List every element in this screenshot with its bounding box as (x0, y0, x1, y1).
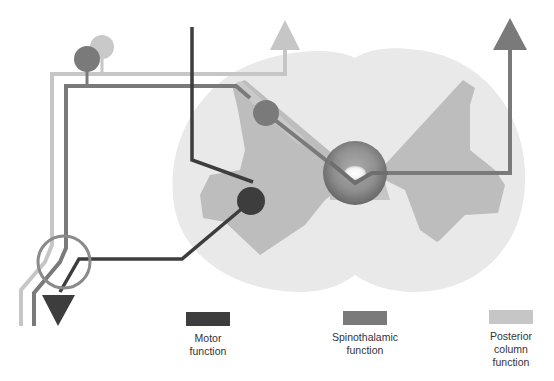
legend-swatch-motor (186, 312, 230, 326)
legend-label-motor-line2: function (180, 345, 236, 358)
legend-label-posterior-line1: Posterior (481, 330, 541, 343)
spinothalamic-ascending-arrow-icon (493, 18, 527, 50)
legend-label-spinothalamic-line2: function (325, 344, 405, 357)
legend-label-posterior-line2: column (481, 343, 541, 356)
legend-swatch-posterior-column (489, 310, 533, 324)
legend-label-posterior-line3: function (481, 356, 541, 369)
legend-label-spinothalamic-line1: Spinothalamic (325, 331, 405, 344)
legend-label-motor-line1: Motor (180, 332, 236, 345)
spinothalamic-dorsal-root-ganglion (74, 46, 100, 72)
posterior-column-ascending-arrow-icon (270, 20, 300, 50)
legend-item-posterior-column: Posterior column function (481, 310, 541, 369)
legend-swatch-spinothalamic (343, 311, 387, 325)
legend-item-motor: Motor function (180, 312, 236, 358)
legend-item-spinothalamic: Spinothalamic function (325, 311, 405, 357)
spinal-cord-diagram (0, 0, 554, 381)
motor-efferent-arrow-icon (42, 295, 75, 326)
